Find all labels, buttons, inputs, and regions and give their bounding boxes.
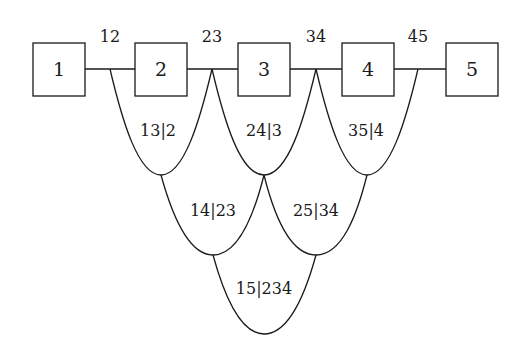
region-label-14-23: 14|23 <box>190 201 236 220</box>
edge-label-34: 34 <box>306 27 326 46</box>
region-label-13-2: 13|2 <box>140 121 176 140</box>
region-label-25-34: 25|34 <box>293 201 339 220</box>
edge-label-45: 45 <box>408 27 428 46</box>
edge-label-12: 12 <box>100 27 120 46</box>
node-5: 5 <box>446 43 498 96</box>
region-label-15-234: 15|234 <box>236 279 292 298</box>
junction-diagram: 1 2 3 4 5 12 23 34 45 13|2 24|3 35|4 14|… <box>0 0 526 358</box>
node-label: 2 <box>155 58 167 80</box>
node-label: 4 <box>362 58 374 80</box>
region-label-24-3: 24|3 <box>246 121 282 140</box>
node-3: 3 <box>238 43 290 96</box>
region-label-35-4: 35|4 <box>348 121 384 140</box>
node-1: 1 <box>33 43 85 96</box>
node-label: 1 <box>53 58 65 80</box>
node-4: 4 <box>342 43 394 96</box>
node-label: 5 <box>466 58 478 80</box>
node-2: 2 <box>135 43 187 96</box>
node-label: 3 <box>258 58 270 80</box>
edge-label-23: 23 <box>202 27 222 46</box>
